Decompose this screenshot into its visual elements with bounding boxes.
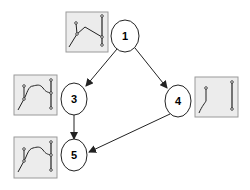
graph-diagram: 1 3 4 5 [0,0,250,190]
node-4-label: 4 [175,95,182,107]
edge-4-5 [89,114,170,152]
node-1-label: 1 [122,30,128,42]
edge-1-4 [135,48,167,88]
thumbnail-node-4 [195,77,238,117]
thumbnail-node-3 [14,75,57,115]
thumbnail-node-5 [14,137,57,178]
node-5: 5 [61,139,87,171]
node-4: 4 [165,85,191,117]
edge-1-3 [86,49,117,86]
node-3: 3 [61,83,87,115]
node-1: 1 [111,20,139,52]
node-5-label: 5 [71,149,77,161]
thumbnail-node-1 [66,12,108,52]
node-3-label: 3 [71,93,77,105]
